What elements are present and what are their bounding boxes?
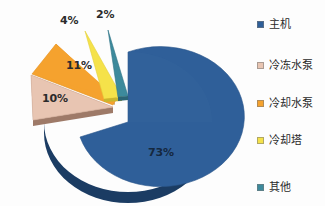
- slice-label-cooling-tower: 4%: [60, 14, 78, 27]
- chart-legend: 主机 冷冻水泵 冷却水泵 冷却塔 其他: [257, 0, 325, 206]
- legend-swatch-icon: [257, 21, 264, 28]
- legend-swatch-icon: [257, 62, 264, 69]
- legend-swatch-icon: [257, 184, 264, 191]
- legend-item-other[interactable]: 其他: [257, 180, 291, 194]
- pie-chart-svg: [0, 0, 250, 206]
- legend-item-chilled-pump[interactable]: 冷冻水泵: [257, 58, 313, 72]
- legend-item-main[interactable]: 主机: [257, 17, 291, 31]
- legend-item-cooling-pump[interactable]: 冷却水泵: [257, 96, 313, 110]
- pie-plot-area: 73% 10% 11% 4% 2%: [0, 0, 250, 206]
- slice-label-cooling-pump: 11%: [66, 59, 92, 72]
- pie-chart-figure: 73% 10% 11% 4% 2% 主机 冷冻水泵 冷却水泵 冷却塔 其他: [0, 0, 325, 206]
- legend-swatch-icon: [257, 137, 264, 144]
- slice-label-main: 73%: [148, 146, 174, 159]
- legend-label: 其他: [269, 182, 291, 193]
- legend-swatch-icon: [257, 100, 264, 107]
- legend-label: 冷冻水泵: [269, 60, 313, 71]
- legend-label: 冷却水泵: [269, 98, 313, 109]
- legend-item-cooling-tower[interactable]: 冷却塔: [257, 133, 302, 147]
- slice-label-other: 2%: [96, 8, 114, 21]
- slice-label-chilled-pump: 10%: [42, 92, 68, 105]
- legend-label: 主机: [269, 19, 291, 30]
- legend-label: 冷却塔: [269, 135, 302, 146]
